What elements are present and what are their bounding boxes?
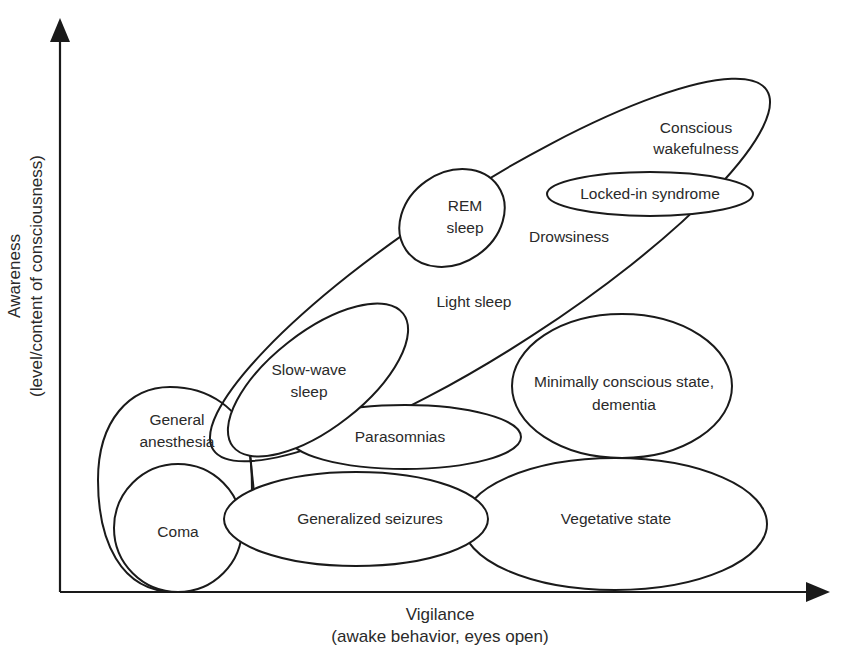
label-generalized-seizures: Generalized seizures: [297, 510, 443, 527]
x-axis-arrow-icon: [806, 582, 830, 602]
label-anesthesia-line1: General: [149, 411, 204, 428]
y-axis-arrow-icon: [50, 18, 70, 42]
label-slow-wave-line1: Slow-wave: [272, 361, 347, 378]
label-coma: Coma: [157, 523, 199, 540]
label-vegetative-state: Vegetative state: [561, 510, 671, 527]
label-parasomnias: Parasomnias: [355, 428, 446, 445]
y-axis-sublabel: (level/content of consciousness): [27, 155, 46, 397]
label-conscious-line2: wakefulness: [652, 140, 739, 157]
consciousness-diagram: Conscious wakefulness Locked-in syndrome…: [0, 0, 845, 671]
x-axis-label: Vigilance: [406, 605, 475, 624]
label-mcs-line2: dementia: [592, 396, 656, 413]
y-axis-label: Awareness: [5, 234, 24, 318]
label-anesthesia-line2: anesthesia: [140, 433, 215, 450]
label-mcs-line1: Minimally conscious state,: [534, 373, 714, 390]
x-axis-sublabel: (awake behavior, eyes open): [331, 627, 548, 646]
label-light-sleep: Light sleep: [437, 293, 512, 310]
label-slow-wave-line2: sleep: [290, 383, 327, 400]
label-rem-line2: sleep: [446, 219, 483, 236]
label-locked-in: Locked-in syndrome: [580, 185, 720, 202]
label-drowsiness: Drowsiness: [529, 228, 609, 245]
label-rem-line1: REM: [448, 197, 482, 214]
label-conscious-line1: Conscious: [660, 119, 733, 136]
